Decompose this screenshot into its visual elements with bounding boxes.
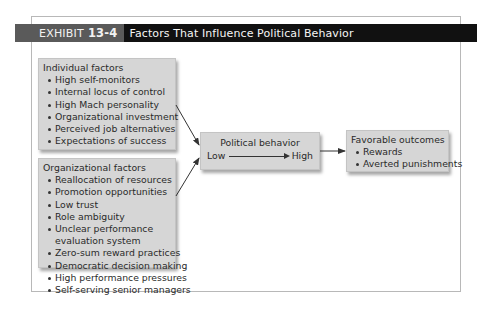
list-item: Promotion opportunities [47,186,171,198]
political-behavior-scale: Low High [207,150,313,162]
scale-arrow-icon [229,156,287,157]
exhibit-title-bar: EXHIBIT 13-4 Factors That Influence Poli… [15,24,477,42]
individual-factors-list: High self-monitors Internal locus of con… [43,74,171,147]
scale-high-label: High [292,150,313,162]
political-behavior-heading: Political behavior [207,137,313,149]
exhibit-title: Factors That Influence Political Behavio… [124,27,354,40]
list-item: Reallocation of resources [47,174,171,186]
list-item: Zero-sum reward practices [47,247,171,259]
list-item: Averted punishments [355,158,444,170]
list-item: High self-monitors [47,74,171,86]
scale-low-label: Low [207,150,225,162]
favorable-outcomes-list: Rewards Averted punishments [351,146,444,170]
organizational-factors-box: Organizational factors Reallocation of r… [38,158,176,268]
exhibit-tag: EXHIBIT [39,27,84,40]
list-item: Unclear performance evaluation system [47,223,165,247]
favorable-outcomes-heading: Favorable outcomes [351,134,444,146]
list-item: High Mach personality [47,99,171,111]
list-item: Low trust [47,199,171,211]
list-item: Democratic decision making [47,260,171,272]
favorable-outcomes-box: Favorable outcomes Rewards Averted punis… [346,130,449,172]
list-item: Expectations of success [47,135,171,147]
organizational-factors-heading: Organizational factors [43,162,171,174]
list-item: Organizational investment [47,111,171,123]
exhibit-label: EXHIBIT 13-4 [15,24,124,42]
political-behavior-box: Political behavior Low High [200,132,320,170]
individual-factors-box: Individual factors High self-monitors In… [38,58,176,150]
exhibit-number: 13-4 [88,26,118,40]
list-item: Self-serving senior managers [47,284,171,296]
list-item: High performance pressures [47,272,171,284]
organizational-factors-list: Reallocation of resources Promotion oppo… [43,174,171,296]
list-item: Perceived job alternatives [47,123,171,135]
list-item: Internal locus of control [47,86,171,98]
list-item: Rewards [355,146,444,158]
list-item: Role ambiguity [47,211,171,223]
individual-factors-heading: Individual factors [43,62,171,74]
